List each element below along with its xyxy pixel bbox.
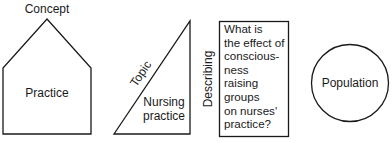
question-line: practice? bbox=[224, 117, 290, 131]
concept-label: Concept bbox=[25, 2, 70, 16]
question-line: ness bbox=[224, 63, 290, 77]
research-question-diagram: Concept Practice Topic Nursing practice … bbox=[0, 0, 392, 143]
question-line: What is bbox=[224, 22, 290, 36]
research-question-text: What is the effect of conscious- ness ra… bbox=[224, 22, 290, 131]
question-line: on nurses' bbox=[224, 104, 290, 118]
population-label: Population bbox=[322, 76, 379, 90]
question-line: raising bbox=[224, 76, 290, 90]
question-line: conscious- bbox=[224, 49, 290, 63]
question-line: the effect of bbox=[224, 36, 290, 50]
concept-pentagon bbox=[3, 19, 91, 134]
topic-label: Topic bbox=[127, 58, 154, 89]
practice-label-2: practice bbox=[143, 109, 185, 123]
practice-label: Practice bbox=[25, 86, 69, 100]
question-line: groups bbox=[224, 90, 290, 104]
describing-label: Describing bbox=[201, 51, 215, 108]
nursing-label: Nursing bbox=[143, 95, 184, 109]
diagram-svg: Concept Practice Topic Nursing practice … bbox=[0, 0, 392, 143]
